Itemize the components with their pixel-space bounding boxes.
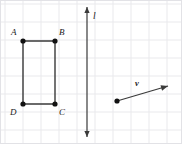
vector-v-arrowhead xyxy=(160,85,168,90)
rectangle-vertex-dots xyxy=(20,38,57,106)
rectangle-abcd xyxy=(20,38,57,106)
vertex-point-a xyxy=(20,38,25,43)
vector-v xyxy=(114,85,168,103)
vertex-label-a: A xyxy=(11,28,17,37)
vector-label-v: v xyxy=(135,79,139,88)
vertex-label-b: B xyxy=(59,28,65,37)
diagram-canvas: A B C D l v xyxy=(0,0,182,144)
line-l-arrowhead-bottom xyxy=(84,131,89,137)
line-l xyxy=(84,7,89,137)
vector-v-start-point xyxy=(114,98,119,103)
line-l-arrowhead-top xyxy=(84,7,89,13)
vertex-point-b xyxy=(52,38,57,43)
rectangle-outline xyxy=(23,41,55,104)
vertex-label-d: D xyxy=(10,108,17,117)
vector-v-shaft xyxy=(117,86,168,101)
vertex-point-d xyxy=(20,101,25,106)
vertex-label-c: C xyxy=(59,108,65,117)
vertex-point-c xyxy=(52,101,57,106)
line-label-l: l xyxy=(93,12,96,22)
diagram-artwork xyxy=(0,0,182,144)
